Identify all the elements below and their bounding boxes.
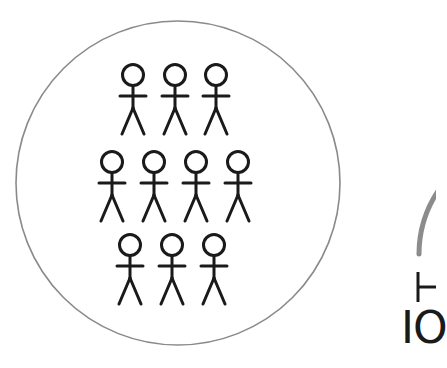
person-icon	[183, 152, 209, 222]
figure-row-1	[120, 65, 229, 135]
person-icon	[120, 65, 146, 135]
figure-row-2	[99, 152, 251, 222]
tee-symbol-icon	[418, 272, 436, 302]
person-icon	[159, 235, 185, 305]
figure-row-3	[117, 235, 227, 305]
person-icon	[203, 65, 229, 135]
partial-arc	[419, 188, 436, 254]
person-icon	[141, 152, 167, 222]
person-icon	[162, 65, 188, 135]
person-icon	[201, 235, 227, 305]
partial-label: IO	[401, 306, 447, 350]
group-circle	[16, 21, 340, 345]
person-icon	[225, 152, 251, 222]
person-icon	[117, 235, 143, 305]
person-icon	[99, 152, 125, 222]
